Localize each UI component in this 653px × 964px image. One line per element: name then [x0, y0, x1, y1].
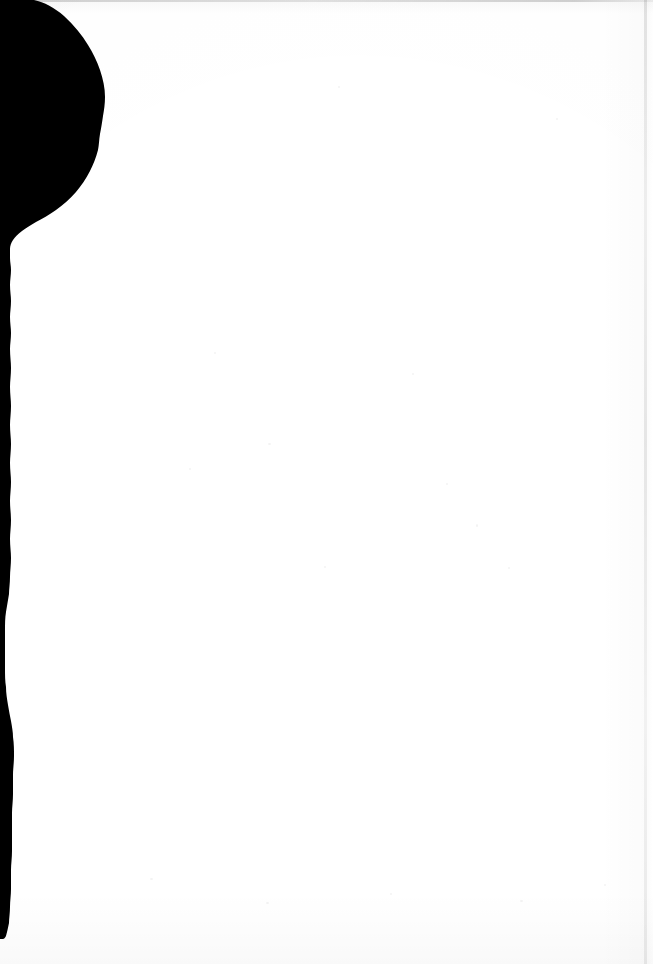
scanner-speck — [324, 566, 326, 568]
scanner-speck — [150, 878, 153, 880]
scanner-speck — [266, 902, 269, 904]
scanner-speck — [268, 443, 271, 445]
scanner-speck — [412, 373, 414, 375]
scanned-page — [0, 0, 653, 964]
scanner-speck — [556, 118, 558, 120]
scanner-speck — [604, 884, 606, 886]
top-edge-scan-line — [0, 0, 653, 2]
right-edge-scan-line — [644, 0, 647, 964]
scanner-speck — [338, 86, 340, 88]
paper-background — [0, 0, 653, 964]
scanner-speck — [508, 567, 510, 569]
scanner-speck — [214, 352, 216, 354]
scanner-speck — [446, 483, 448, 485]
scanner-speck — [520, 900, 523, 902]
black-ink-mass — [0, 0, 120, 964]
bottom-edge-scan-wash — [0, 892, 653, 964]
scanner-speck — [476, 524, 478, 527]
scanner-speck — [390, 893, 392, 895]
scanner-speck — [189, 468, 191, 470]
